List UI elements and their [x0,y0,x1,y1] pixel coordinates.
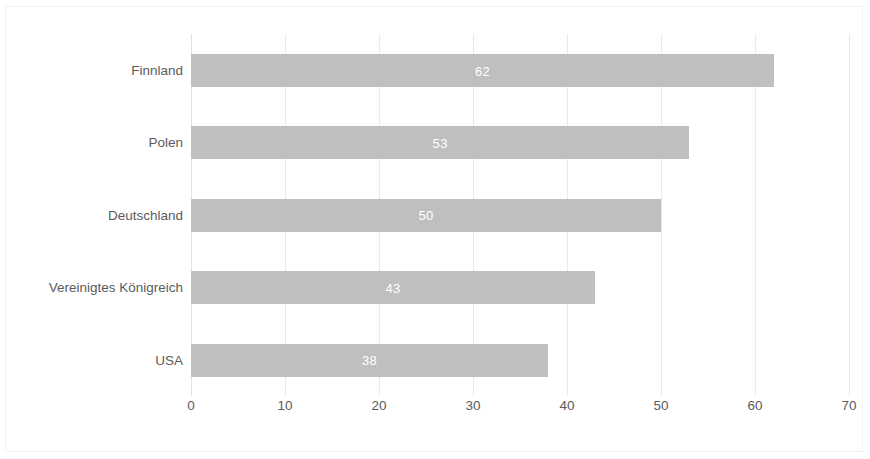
bar-finnland[interactable]: 62 [191,54,774,87]
bar-row: 43 [191,251,849,323]
xtick-label-40: 40 [559,398,574,413]
bar-row: 53 [191,106,849,178]
category-label-vereinigtes-koenigreich: Vereinigtes Königreich [49,271,183,304]
category-label-polen: Polen [148,126,183,159]
bar-row: 50 [191,179,849,251]
xtick-label-50: 50 [653,398,668,413]
category-label-usa: USA [155,344,183,377]
category-label-deutschland: Deutschland [108,199,183,232]
bar-row: 62 [191,34,849,106]
bar-polen[interactable]: 53 [191,126,689,159]
bar-usa[interactable]: 38 [191,344,548,377]
value-axis: 0 10 20 30 40 50 60 70 [191,398,849,422]
xtick-label-0: 0 [187,398,195,413]
xtick-label-30: 30 [465,398,480,413]
bar-row: 38 [191,324,849,396]
bar-value-label: 53 [191,136,689,149]
category-axis: Finnland Polen Deutschland Vereinigtes K… [0,34,183,396]
bar-value-label: 50 [191,209,661,222]
xtick-label-20: 20 [371,398,386,413]
xtick-label-10: 10 [277,398,292,413]
plot-area: 62 53 50 43 38 [191,34,849,396]
bar-value-label: 43 [191,281,595,294]
bar-deutschland[interactable]: 50 [191,199,661,232]
bar-value-label: 62 [191,64,774,77]
bar-vereinigtes-koenigreich[interactable]: 43 [191,271,595,304]
gridline-70 [849,34,850,396]
category-label-finnland: Finnland [131,54,183,87]
xtick-label-60: 60 [747,398,762,413]
bar-value-label: 38 [191,354,548,367]
xtick-label-70: 70 [841,398,856,413]
bar-chart-screenshot: Finnland Polen Deutschland Vereinigtes K… [0,0,870,459]
